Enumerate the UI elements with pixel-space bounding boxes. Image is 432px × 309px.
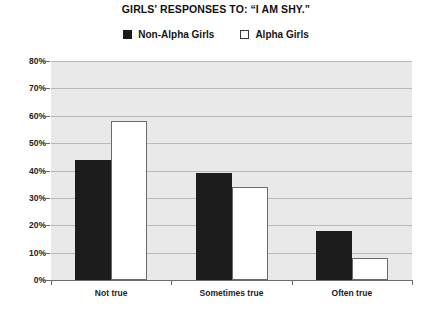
x-tick-mark [412,280,413,285]
gridline [51,116,412,117]
y-tick-label: 0% [6,275,46,285]
y-tick-mark [44,61,50,62]
gridline [51,61,412,62]
y-tick-mark [44,116,50,117]
y-tick-mark [44,280,50,281]
bar [75,160,111,280]
y-tick-label: 80% [6,56,46,66]
y-tick-label: 50% [6,138,46,148]
y-tick-label: 60% [6,111,46,121]
chart-plot-wrapper: 0%10%20%30%40%50%60%70%80% Not trueSomet… [0,0,432,309]
y-tick-mark [44,253,50,254]
bar [316,231,352,280]
x-category-label: Often true [332,288,373,298]
x-category-label: Sometimes true [200,288,264,298]
gridline [51,88,412,89]
y-tick-mark [44,88,50,89]
x-tick-mark [51,280,52,285]
bar [352,258,388,280]
x-tick-mark [171,280,172,285]
x-tick-mark [292,280,293,285]
y-tick-label: 20% [6,220,46,230]
bar [232,187,268,280]
bar [111,121,147,280]
y-tick-mark [44,171,50,172]
y-tick-label: 30% [6,193,46,203]
x-axis-line [44,280,412,281]
y-tick-label: 40% [6,166,46,176]
y-axis: 0%10%20%30%40%50%60%70%80% [0,0,46,309]
x-category-label: Not true [95,288,128,298]
y-tick-label: 10% [6,248,46,258]
bar [196,173,232,280]
y-tick-mark [44,225,50,226]
y-tick-mark [44,143,50,144]
gridline [51,143,412,144]
y-tick-mark [44,198,50,199]
y-tick-label: 70% [6,83,46,93]
